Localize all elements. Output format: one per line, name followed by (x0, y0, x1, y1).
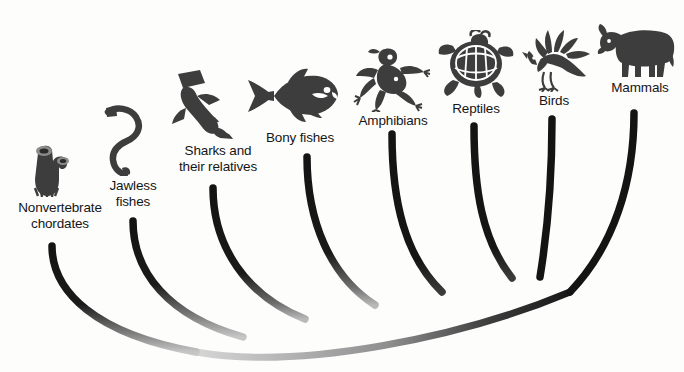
taxon-label-mammals: Mammals (600, 80, 680, 96)
taxon-label-jawless-fishes: Jawless fishes (98, 178, 168, 209)
taxon-label-bony-fishes: Bony fishes (254, 130, 346, 146)
taxon-label-nonvertebrate-chordates: Nonvertebrate chordates (8, 200, 112, 231)
branch-mammals (570, 113, 634, 292)
phylogenetic-tree-figure: Nonvertebrate chordates Jawless fishes S… (0, 0, 684, 372)
bird-icon (520, 28, 596, 92)
frog-icon (352, 46, 430, 112)
tunicate-icon (26, 139, 72, 197)
tuna-icon (244, 66, 340, 124)
branch-jawless-fishes (133, 221, 243, 337)
branch-bony-fishes (307, 157, 375, 305)
cow-icon (597, 19, 677, 79)
taxon-label-amphibians: Amphibians (348, 113, 438, 129)
branch-birds (540, 119, 552, 277)
branch-trunk (196, 292, 570, 357)
branch-sharks-and-relatives (213, 188, 305, 319)
hammerhead-shark-icon (164, 70, 244, 142)
turtle-icon (437, 30, 515, 98)
taxon-label-reptiles: Reptiles (440, 101, 512, 117)
taxon-label-sharks-and-relatives: Sharks and their relatives (168, 143, 268, 174)
branch-reptiles (474, 126, 512, 278)
branch-amphibians (392, 134, 442, 292)
branch-nonvertebrate-chordates (52, 246, 196, 352)
taxon-label-birds: Birds (526, 93, 582, 109)
lamprey-icon (100, 104, 160, 176)
